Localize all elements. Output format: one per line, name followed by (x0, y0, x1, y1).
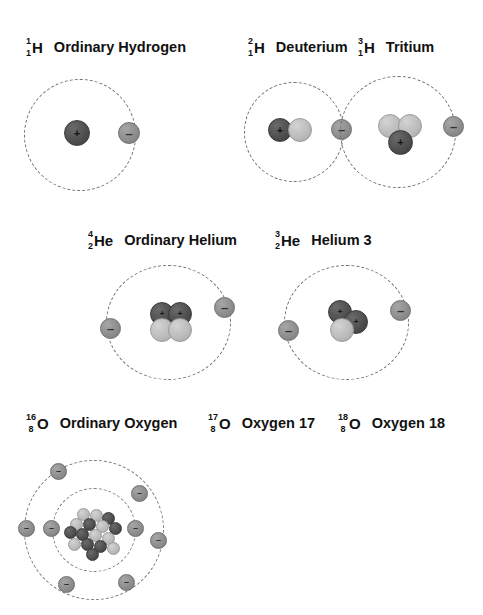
electron-sign: – (56, 467, 61, 476)
electron: – (214, 297, 235, 318)
element-symbol: H (32, 40, 43, 55)
isotope-label-helium-4: 4 2 He Ordinary Helium (88, 229, 237, 251)
electron: – (127, 520, 144, 537)
electron-sign: – (133, 524, 138, 533)
isotope-name: Helium 3 (311, 233, 371, 248)
mass-number: 2 (248, 36, 253, 46)
element-symbol: O (37, 416, 49, 431)
electron: – (43, 520, 60, 537)
atom-diagram-hydrogen-1: + – (20, 76, 140, 194)
neutron (68, 538, 81, 551)
isotope-label-hydrogen-1: 1 1 H Ordinary Hydrogen (26, 36, 186, 58)
mass-number: 4 (88, 229, 93, 239)
electron-sign: – (156, 536, 161, 545)
atomic-number: 8 (211, 424, 216, 434)
isotope-label-hydrogen-3: 3 1 H Tritium (358, 36, 434, 58)
neutron (107, 542, 120, 555)
electron: – (50, 463, 67, 480)
proton-sign: + (160, 310, 165, 318)
proton-sign: + (397, 137, 403, 148)
isotope-name: Oxygen 17 (242, 416, 315, 431)
mass-number: 1 (26, 36, 31, 46)
electron: – (131, 485, 148, 502)
electron: – (118, 574, 135, 591)
isotope-label-oxygen-18: 18 8 O Oxygen 18 (338, 412, 445, 434)
mass-number: 18 (338, 412, 348, 422)
atom-diagram-hydrogen-2: + – (242, 80, 352, 190)
element-symbol: H (364, 40, 375, 55)
isotope-name: Ordinary Oxygen (60, 416, 178, 431)
atomic-number: 1 (26, 48, 31, 58)
neutron (168, 318, 192, 342)
mass-number: 3 (358, 36, 363, 46)
proton: + (64, 120, 90, 146)
isotope-numbers: 18 8 (338, 412, 348, 434)
electron: – (390, 300, 411, 321)
element-symbol: He (281, 233, 300, 248)
electron-sign: – (221, 301, 228, 314)
atomic-number: 2 (88, 241, 93, 251)
neutron (288, 118, 312, 142)
isotope-numbers: 17 8 (208, 412, 218, 434)
atomic-number: 1 (358, 48, 363, 58)
isotope-numbers: 2 1 (248, 36, 253, 58)
isotope-label-oxygen-17: 17 8 O Oxygen 17 (208, 412, 315, 434)
isotope-name: Tritium (386, 40, 434, 55)
electron: – (443, 116, 464, 137)
isotope-numbers: 3 2 (275, 229, 280, 251)
atom-diagram-helium-3: + + – – (272, 262, 420, 384)
isotope-label-helium-3: 3 2 He Helium 3 (275, 229, 372, 251)
electron-sign: – (49, 524, 54, 533)
electron-sign: – (64, 580, 69, 589)
element-symbol: O (349, 416, 361, 431)
atomic-number: 1 (248, 48, 253, 58)
electron-sign: – (285, 324, 292, 337)
proton (86, 548, 99, 561)
atomic-number: 8 (29, 424, 34, 434)
atom-diagram-oxygen-16: – – – – – – – – (14, 452, 174, 612)
mass-number: 16 (26, 412, 36, 422)
electron: – (150, 532, 167, 549)
atom-diagram-hydrogen-3: + – (338, 72, 466, 197)
isotope-name: Oxygen 18 (372, 416, 445, 431)
atomic-number: 8 (341, 424, 346, 434)
electron: – (58, 576, 75, 593)
isotope-label-oxygen-16: 16 8 O Ordinary Oxygen (26, 412, 177, 434)
electron-sign: – (125, 126, 132, 139)
electron: – (100, 318, 121, 339)
electron: – (278, 320, 299, 341)
electron: – (118, 122, 140, 144)
mass-number: 3 (275, 229, 280, 239)
isotope-name: Ordinary Helium (124, 233, 237, 248)
electron: – (18, 520, 35, 537)
proton-sign: + (74, 127, 80, 138)
proton-sign: + (354, 318, 359, 326)
electron-sign: – (137, 489, 142, 498)
isotope-name: Deuterium (276, 40, 348, 55)
isotope-name: Ordinary Hydrogen (54, 40, 186, 55)
isotope-numbers: 3 1 (358, 36, 363, 58)
neutron (330, 318, 354, 342)
proton-sign: + (178, 310, 183, 318)
isotope-numbers: 1 1 (26, 36, 31, 58)
mass-number: 17 (208, 412, 218, 422)
electron-sign: – (450, 120, 457, 133)
element-symbol: He (94, 233, 113, 248)
isotope-label-hydrogen-2: 2 1 H Deuterium (248, 36, 348, 58)
proton-sign: + (277, 124, 283, 135)
element-symbol: H (254, 40, 265, 55)
isotope-diagram-figure: 1 1 H Ordinary Hydrogen 2 1 H Deuterium … (0, 0, 483, 615)
isotope-numbers: 16 8 (26, 412, 36, 434)
atom-diagram-helium-4: + + – – (100, 262, 242, 384)
electron-sign: – (24, 524, 29, 533)
isotope-numbers: 4 2 (88, 229, 93, 251)
electron-sign: – (397, 304, 404, 317)
electron-sign: – (107, 322, 114, 335)
element-symbol: O (219, 416, 231, 431)
electron-sign: – (124, 578, 129, 587)
proton-sign: + (338, 308, 343, 316)
atomic-number: 2 (275, 241, 280, 251)
proton: + (388, 130, 413, 155)
